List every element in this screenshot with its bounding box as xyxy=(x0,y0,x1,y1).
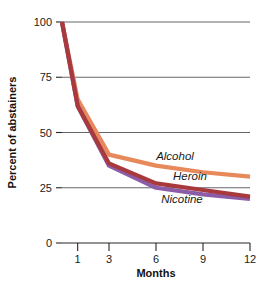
y-axis-tickmarks xyxy=(56,22,62,243)
y-tick-label-50: 50 xyxy=(40,127,52,139)
series-label-heroin: Heroin xyxy=(173,170,207,182)
series-line-heroin xyxy=(62,22,250,197)
x-tick-label-1: 1 xyxy=(75,253,81,265)
x-tick-label-9: 9 xyxy=(200,253,206,265)
series-annotations: Alcohol Heroin Nicotine xyxy=(155,150,207,205)
x-axis-title: Months xyxy=(136,267,175,279)
series-label-alcohol: Alcohol xyxy=(155,150,194,162)
gridlines xyxy=(62,22,250,188)
y-axis-tick-labels: 100 75 50 25 0 xyxy=(34,16,52,249)
data-series-group xyxy=(62,22,250,199)
y-tick-label-25: 25 xyxy=(40,182,52,194)
x-axis-tick-labels: 1 3 6 9 12 xyxy=(75,253,257,265)
x-tick-label-12: 12 xyxy=(244,253,256,265)
y-tick-label-75: 75 xyxy=(40,71,52,83)
relapse-curves-chart: 100 75 50 25 0 Percent of abstainers xyxy=(0,0,265,283)
y-tick-label-0: 0 xyxy=(46,237,52,249)
x-tick-label-3: 3 xyxy=(106,253,112,265)
series-label-nicotine: Nicotine xyxy=(161,193,203,205)
x-axis-tickmarks xyxy=(78,243,250,251)
x-tick-label-6: 6 xyxy=(153,253,159,265)
y-tick-label-100: 100 xyxy=(34,16,52,28)
chart-canvas: 100 75 50 25 0 Percent of abstainers xyxy=(0,0,265,283)
y-axis-title: Percent of abstainers xyxy=(6,77,18,189)
